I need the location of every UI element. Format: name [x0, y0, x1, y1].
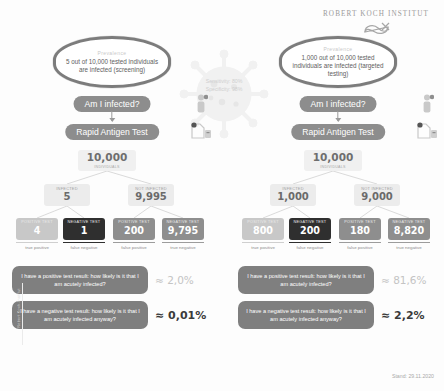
probability-tree: 10,000 INDIVIDUALS INFECTED 5 NOT INFECT… — [12, 150, 212, 248]
leaf-caption: POSITIVE TEST — [16, 218, 58, 225]
question-list: I have a positive test result: how likel… — [12, 266, 212, 329]
infected-value: 5 — [44, 191, 90, 204]
not-infected-caption: NOT INFECTED — [354, 184, 400, 191]
leaf-value: 4 — [16, 225, 58, 238]
infected-caption: INFECTED — [270, 184, 316, 191]
tree-node-not-infected: NOT INFECTED 9,995 — [128, 184, 174, 206]
tree-node-infected: INFECTED 5 — [44, 184, 90, 206]
scenario-screening: Prevalence 5 out of 10,000 tested indivi… — [12, 36, 212, 336]
arrow-down-icon — [111, 111, 112, 121]
leaf-caption: POSITIVE TEST — [242, 218, 284, 225]
leaf-value: 180 — [339, 225, 381, 238]
leaf-label-true-positive: true positive — [16, 242, 58, 250]
question-text: I have a positive test result: how likel… — [238, 266, 374, 294]
leaf-label-true-positive: true positive — [242, 242, 284, 250]
leaf-label-false-negative: false negative — [63, 242, 105, 250]
question-list: I have a positive test result: how likel… — [238, 266, 438, 329]
tree-node-not-infected: NOT INFECTED 9,000 — [354, 184, 400, 206]
question-row: I have a negative test result: how likel… — [12, 301, 212, 329]
leaf-label-false-positive: false positive — [339, 242, 381, 250]
scenario-targeted: Prevalence 1,000 out of 10,000 tested in… — [238, 36, 438, 336]
leaf-label-true-negative: true negative — [388, 242, 430, 250]
question-text: I have a negative test result: how likel… — [238, 301, 374, 329]
question-pill: Am I infected? — [300, 96, 377, 112]
tree-leaf-false-positive: POSITIVE TEST 200 — [113, 218, 155, 240]
root-value: 10,000 — [78, 150, 136, 165]
question-text: I have a negative test result: how likel… — [12, 301, 148, 329]
institute-name: ROBERT KOCH INSTITUT — [316, 10, 436, 18]
leaf-caption: NEGATIVE TEST — [289, 218, 331, 225]
leaf-value: 1 — [63, 225, 105, 238]
question-text: I have a positive test result: how likel… — [12, 266, 148, 294]
question-row: I have a positive test result: how likel… — [238, 266, 438, 294]
question-result: ≈ 2,2% — [381, 309, 425, 322]
flow-diagram: Am I infected? Rapid Antigen Test — [12, 96, 212, 148]
tree-leaf-true-negative: NEGATIVE TEST 9,795 — [162, 218, 204, 240]
leaf-caption: POSITIVE TEST — [339, 218, 381, 225]
prevalence-title: Prevalence — [323, 46, 352, 52]
prevalence-title: Prevalence — [97, 50, 126, 56]
question-result: ≈ 81,6% — [381, 274, 427, 286]
rki-logo: ROBERT KOCH INSTITUT — [316, 10, 436, 38]
not-infected-value: 9,995 — [128, 191, 174, 204]
flow-diagram: Am I infected? Rapid Antigen Test — [238, 96, 438, 148]
question-row: I have a positive test result: how likel… — [12, 266, 212, 294]
leaf-caption: POSITIVE TEST — [113, 218, 155, 225]
arrow-down-icon — [337, 111, 338, 121]
test-kit-icon — [190, 122, 212, 140]
side-divider — [22, 283, 23, 345]
not-infected-value: 9,000 — [354, 191, 400, 204]
tree-leaf-true-negative: NEGATIVE TEST 8,820 — [388, 218, 430, 240]
tree-node-root: 10,000 INDIVIDUALS — [304, 150, 362, 171]
test-pill: Rapid Antigen Test — [291, 124, 385, 140]
prevalence-text: 5 out of 10,000 tested individuals are i… — [56, 58, 168, 74]
leaf-label-false-negative: false negative — [289, 242, 331, 250]
not-infected-caption: NOT INFECTED — [128, 184, 174, 191]
probability-tree: 10,000 INDIVIDUALS INFECTED 1,000 NOT IN… — [238, 150, 438, 248]
date-stamp: Stand: 29.11.2020 — [392, 373, 434, 379]
leaf-value: 200 — [289, 225, 331, 238]
tree-leaf-true-positive: POSITIVE TEST 800 — [242, 218, 284, 240]
tree-leaf-false-negative: NEGATIVE TEST 1 — [63, 218, 105, 240]
side-credit: Robert Koch-Institut — [17, 288, 21, 328]
leaf-value: 800 — [242, 225, 284, 238]
prevalence-bubble: Prevalence 1,000 out of 10,000 tested in… — [279, 36, 397, 88]
question-pill: Am I infected? — [74, 96, 151, 112]
leaf-value: 200 — [113, 225, 155, 238]
question-result: ≈ 2,0% — [155, 274, 194, 286]
root-caption: INDIVIDUALS — [304, 165, 362, 170]
root-value: 10,000 — [304, 150, 362, 165]
leaf-label-false-positive: false positive — [113, 242, 155, 250]
prevalence-bubble: Prevalence 5 out of 10,000 tested indivi… — [53, 36, 171, 88]
leaf-caption: NEGATIVE TEST — [388, 218, 430, 225]
infected-value: 1,000 — [270, 191, 316, 204]
question-result: ≈ 0,01% — [155, 309, 206, 322]
leaf-value: 9,795 — [162, 225, 204, 238]
leaf-label-true-negative: true negative — [162, 242, 204, 250]
leaf-value: 8,820 — [388, 225, 430, 238]
root-caption: INDIVIDUALS — [78, 165, 136, 170]
infographic-page: ROBERT KOCH INSTITUT — [0, 0, 444, 391]
prevalence-text: 1,000 out of 10,000 tested individuals a… — [282, 54, 394, 79]
infected-caption: INFECTED — [44, 184, 90, 191]
leaf-caption: NEGATIVE TEST — [63, 218, 105, 225]
test-kit-icon — [416, 122, 438, 140]
tree-node-infected: INFECTED 1,000 — [270, 184, 316, 206]
tree-leaf-true-positive: POSITIVE TEST 4 — [16, 218, 58, 240]
person-infected-icon — [422, 94, 434, 114]
person-infected-icon — [196, 94, 208, 114]
tree-leaf-false-positive: POSITIVE TEST 180 — [339, 218, 381, 240]
leaf-caption: NEGATIVE TEST — [162, 218, 204, 225]
tree-node-root: 10,000 INDIVIDUALS — [78, 150, 136, 171]
test-pill: Rapid Antigen Test — [65, 124, 159, 140]
tree-leaf-false-negative: NEGATIVE TEST 200 — [289, 218, 331, 240]
question-row: I have a negative test result: how likel… — [238, 301, 438, 329]
